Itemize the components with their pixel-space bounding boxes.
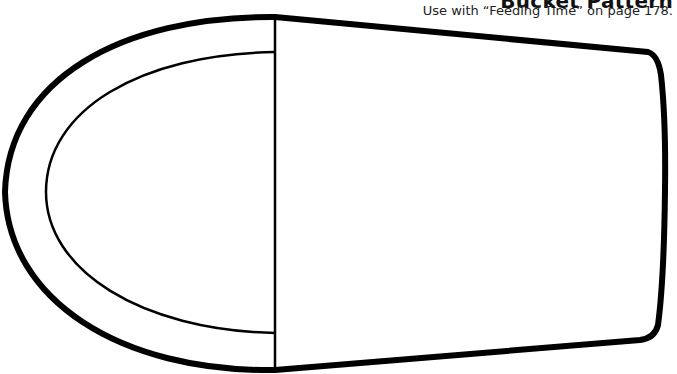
bucket-pattern-drawing: [0, 0, 677, 374]
bucket-outline: [5, 17, 665, 370]
